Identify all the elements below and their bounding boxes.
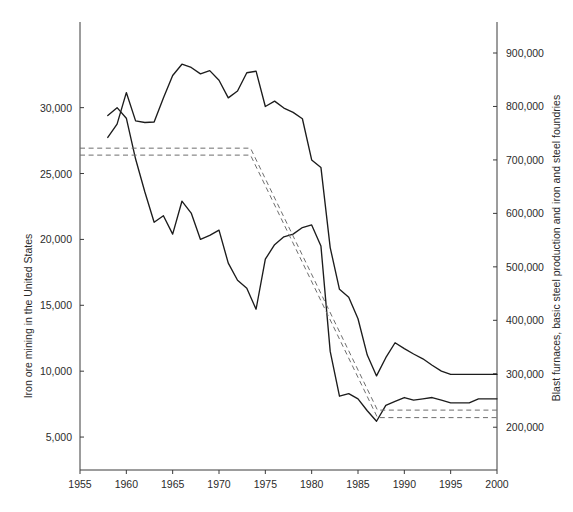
y-tick-label-left: 25,000: [40, 168, 72, 180]
y-tick-label-right: 800,000: [506, 100, 544, 112]
x-tick-label: 1955: [68, 478, 92, 490]
x-tick-label: 1970: [207, 478, 231, 490]
x-tick-label: 1960: [115, 478, 139, 490]
x-tick-label: 2000: [485, 478, 509, 490]
right-axis-title: Blast furnaces, basic steel production a…: [550, 95, 562, 401]
x-tick-label: 1975: [254, 478, 278, 490]
line-chart: 1955196019651970197519801985199019952000…: [0, 0, 573, 512]
y-tick-label-right: 900,000: [506, 47, 544, 59]
y-tick-label-left: 30,000: [40, 102, 72, 114]
x-tick-label: 1980: [300, 478, 324, 490]
x-tick-label: 1990: [393, 478, 417, 490]
y-tick-label-left: 5,000: [46, 431, 72, 443]
left-axis-title: Iron ore mining in the United States: [22, 234, 34, 399]
y-tick-label-right: 300,000: [506, 368, 544, 380]
y-tick-label-left: 10,000: [40, 365, 72, 377]
x-tick-label: 1985: [346, 478, 370, 490]
y-tick-label-right: 400,000: [506, 314, 544, 326]
x-tick-label: 1965: [161, 478, 185, 490]
y-tick-label-left: 15,000: [40, 299, 72, 311]
plot-background: [80, 22, 497, 470]
chart-container: 1955196019651970197519801985199019952000…: [0, 0, 573, 512]
y-tick-label-right: 200,000: [506, 421, 544, 433]
y-tick-label-right: 700,000: [506, 154, 544, 166]
y-tick-label-right: 500,000: [506, 261, 544, 273]
y-tick-label-right: 600,000: [506, 207, 544, 219]
x-tick-label: 1995: [439, 478, 463, 490]
y-tick-label-left: 20,000: [40, 233, 72, 245]
